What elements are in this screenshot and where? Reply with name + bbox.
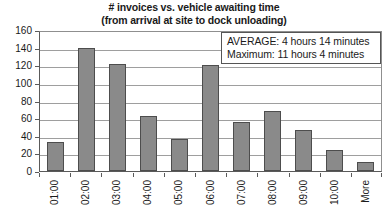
x-tick-label: 04:00 <box>143 180 153 205</box>
y-tick-label: 60 <box>21 114 32 124</box>
x-tick-label: More <box>361 180 371 203</box>
x-slot: 04:00 <box>133 173 164 222</box>
bar-slot <box>71 32 102 171</box>
x-tick-mark <box>381 173 382 177</box>
y-tick-label: 160 <box>15 26 32 36</box>
x-tick-mark <box>164 173 165 177</box>
x-tick-label: 02:00 <box>81 180 91 205</box>
x-tick-mark <box>70 173 71 177</box>
x-slot: 08:00 <box>257 173 288 222</box>
annotation-maximum: Maximum: 11 hours 4 minutes <box>227 48 376 61</box>
bar[interactable] <box>233 122 250 171</box>
bar[interactable] <box>78 48 95 171</box>
x-slot: 02:00 <box>70 173 101 222</box>
x-tick-label: 06:00 <box>206 180 216 205</box>
bar-slot <box>164 32 195 171</box>
x-tick-mark <box>101 173 102 177</box>
chart-title-line1: # invoices vs. vehicle awaiting time <box>109 1 280 13</box>
x-slot: 03:00 <box>101 173 132 222</box>
chart-title: # invoices vs. vehicle awaiting time (fr… <box>0 1 388 26</box>
annotation-average: AVERAGE: 4 hours 14 minutes <box>227 35 376 48</box>
x-tick-label: 09:00 <box>299 180 309 205</box>
x-tick-label: 01:00 <box>50 180 60 205</box>
x-tick-mark <box>257 173 258 177</box>
x-slot: More <box>351 173 382 222</box>
bar[interactable] <box>47 142 64 171</box>
x-tick-label: 08:00 <box>268 180 278 205</box>
x-axis: 01:0002:0003:0004:0005:0006:0007:0008:00… <box>39 173 382 222</box>
bar-chart: # invoices vs. vehicle awaiting time (fr… <box>0 0 388 222</box>
x-tick-mark <box>195 173 196 177</box>
y-tick-label: 0 <box>26 167 32 177</box>
bar-slot <box>133 32 164 171</box>
chart-title-line2: (from arrival at site to dock unloading) <box>0 14 388 27</box>
x-tick-label: 03:00 <box>112 180 122 205</box>
bar[interactable] <box>202 65 219 171</box>
x-tick-mark <box>39 173 40 177</box>
y-tick-label: 40 <box>21 132 32 142</box>
y-tick-label: 140 <box>15 44 32 54</box>
bar[interactable] <box>264 111 281 171</box>
x-tick-mark <box>320 173 321 177</box>
bar[interactable] <box>109 64 126 172</box>
x-slot: 10:00 <box>320 173 351 222</box>
x-tick-mark <box>226 173 227 177</box>
bar-slot <box>40 32 71 171</box>
y-tick-label: 20 <box>21 149 32 159</box>
bar[interactable] <box>295 130 312 171</box>
bar[interactable] <box>326 150 343 171</box>
bar-slot <box>102 32 133 171</box>
bar[interactable] <box>357 162 374 171</box>
y-tick-label: 80 <box>21 97 32 107</box>
x-tick-label: 05:00 <box>174 180 184 205</box>
bar[interactable] <box>171 139 188 171</box>
x-tick-mark <box>351 173 352 177</box>
x-slot: 01:00 <box>39 173 70 222</box>
y-tick-label: 100 <box>15 79 32 89</box>
bar[interactable] <box>140 116 157 171</box>
y-tick-label: 120 <box>15 61 32 71</box>
x-tick-mark <box>289 173 290 177</box>
x-slot: 06:00 <box>195 173 226 222</box>
x-slot: 07:00 <box>226 173 257 222</box>
x-tick-mark <box>133 173 134 177</box>
annotation-box: AVERAGE: 4 hours 14 minutes Maximum: 11 … <box>221 32 381 64</box>
x-tick-label: 10:00 <box>330 180 340 205</box>
y-axis: 160140120100806040200 <box>0 31 39 172</box>
x-slot: 09:00 <box>289 173 320 222</box>
x-tick-label: 07:00 <box>237 180 247 205</box>
x-slot: 05:00 <box>164 173 195 222</box>
